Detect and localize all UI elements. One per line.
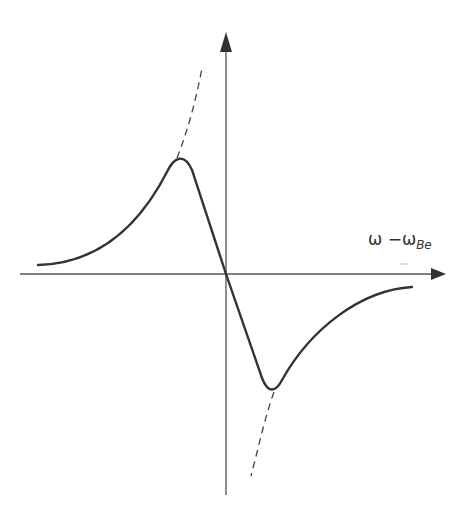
plot-area [0, 0, 473, 515]
y-axis-arrow-icon [220, 32, 232, 52]
figure: ω −ωBe [0, 0, 473, 515]
x-axis-label-omega: ω [402, 229, 416, 249]
x-axis-label: ω −ωBe [368, 229, 432, 252]
dashed-asymptote-left [177, 68, 202, 158]
x-axis-label-subscript: Be [416, 238, 432, 252]
x-axis-arrow-icon [431, 268, 446, 280]
x-axis-label-main: ω − [368, 229, 402, 249]
dashed-asymptote-right [251, 392, 274, 476]
